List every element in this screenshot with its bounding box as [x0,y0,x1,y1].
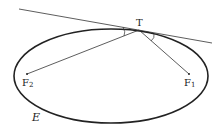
angle-arc-right [151,34,154,41]
ellipse-e [14,29,208,123]
focus-f2-point [26,73,28,75]
focus-f1-point [188,73,190,75]
segment-t-f2 [27,30,139,74]
ellipse-diagram: T F2 F1 E [0,0,222,138]
label-f2: F2 [22,77,33,89]
label-e: E [31,111,40,124]
label-f1: F1 [184,77,195,89]
tangent-line [19,9,212,43]
label-t: T [136,17,143,28]
angle-arc-left [123,27,125,36]
